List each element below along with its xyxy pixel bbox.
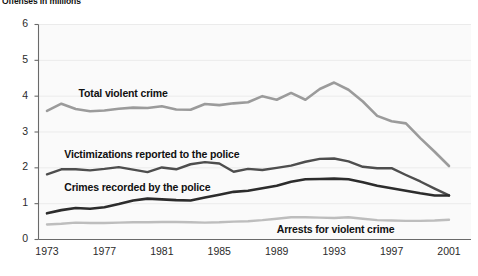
x-tick-label-1977: 1977 xyxy=(82,245,126,257)
y-tick-label-2: 2 xyxy=(6,160,28,172)
y-tick-label-4: 4 xyxy=(6,89,28,101)
annotation-arrests-for-violent-crime: Arrests for violent crime xyxy=(277,223,395,235)
x-tick-label-1973: 1973 xyxy=(25,245,69,257)
x-tick-label-1981: 1981 xyxy=(140,245,184,257)
annotation-total-violent-crime: Total violent crime xyxy=(79,87,168,99)
x-tick-label-1989: 1989 xyxy=(255,245,299,257)
chart-figure: Offenses in millions 6543210 19731977198… xyxy=(0,0,478,276)
x-tick-label-1997: 1997 xyxy=(370,245,414,257)
annotation-victimizations-reported-to-the-police: Victimizations reported to the police xyxy=(64,148,239,160)
x-tick-label-2001: 2001 xyxy=(427,245,471,257)
y-tick-label-1: 1 xyxy=(6,196,28,208)
annotation-crimes-recorded-by-the-police: Crimes recorded by the police xyxy=(64,181,210,193)
line-chart-plot xyxy=(0,0,478,276)
x-tick-label-1985: 1985 xyxy=(197,245,241,257)
y-tick-label-3: 3 xyxy=(6,125,28,137)
y-tick-label-6: 6 xyxy=(6,17,28,29)
y-tick-label-5: 5 xyxy=(6,53,28,65)
x-tick-label-1993: 1993 xyxy=(312,245,356,257)
y-tick-label-0: 0 xyxy=(6,232,28,244)
